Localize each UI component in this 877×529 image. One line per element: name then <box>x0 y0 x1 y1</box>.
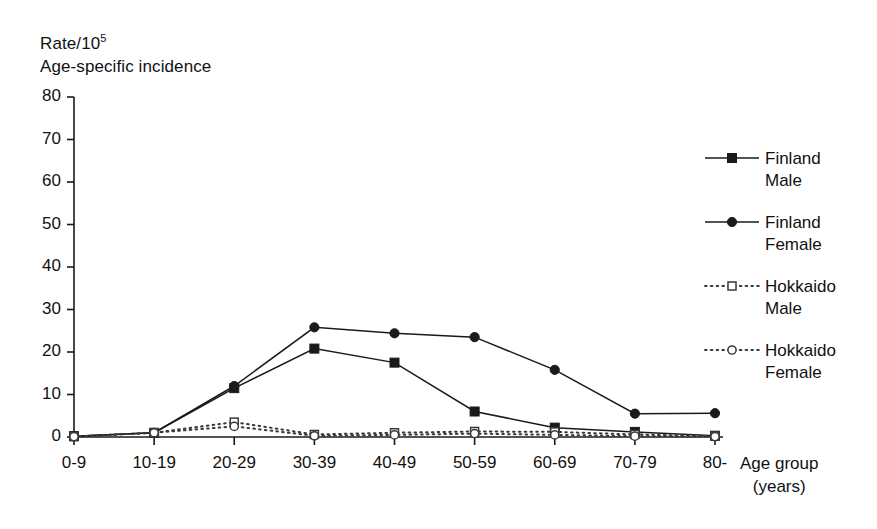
y-axis-tick-label: 0 <box>27 426 61 446</box>
y-axis-tick-label: 10 <box>27 384 61 404</box>
marker-filled-circle <box>710 409 719 418</box>
marker-filled-circle <box>230 381 239 390</box>
x-axis-tick-label: 80- <box>703 453 728 473</box>
x-axis-tick-label: 10-19 <box>132 453 175 473</box>
legend-marker-sample <box>703 149 761 167</box>
legend-label: FinlandMale <box>765 148 821 192</box>
plot-area <box>0 0 877 529</box>
marker-open-circle <box>310 432 318 440</box>
marker-open-circle <box>711 432 719 440</box>
x-axis-tick-label: 60-69 <box>533 453 576 473</box>
x-axis-tick-label: 70-79 <box>613 453 656 473</box>
legend-label-line1: Finland <box>765 148 821 170</box>
x-axis-tick-label: 20-29 <box>213 453 256 473</box>
series-finland-female <box>69 323 719 441</box>
marker-open-circle <box>471 430 479 438</box>
chart-figure: Rate/105 Age-specific incidence Age grou… <box>0 0 877 529</box>
marker-filled-circle <box>630 409 639 418</box>
y-axis-title-rate: Rate/105 <box>40 32 106 55</box>
y-axis-title-text: Rate/10 <box>40 34 100 53</box>
y-axis-tick-label: 30 <box>27 299 61 319</box>
marker-filled-square <box>470 407 479 416</box>
y-axis-tick-label: 70 <box>27 129 61 149</box>
marker-filled-circle <box>727 217 736 226</box>
x-axis-tick-label: 50-59 <box>453 453 496 473</box>
legend-label-line2: Male <box>765 298 836 320</box>
series-line <box>74 327 715 436</box>
y-axis-tick-label: 20 <box>27 341 61 361</box>
y-axis-tick-label: 60 <box>27 171 61 191</box>
legend-item-finland-male[interactable]: FinlandMale <box>703 148 821 192</box>
marker-filled-circle <box>390 329 399 338</box>
marker-filled-square <box>310 344 319 353</box>
x-axis-title: Age group (years) <box>740 452 818 498</box>
legend-item-finland-female[interactable]: FinlandFemale <box>703 212 822 256</box>
marker-open-circle <box>230 422 238 430</box>
y-axis-tick-label: 80 <box>27 86 61 106</box>
legend-label: HokkaidoFemale <box>765 340 836 384</box>
legend-marker-sample <box>703 341 761 359</box>
legend-label-line2: Female <box>765 362 836 384</box>
y-axis-tick-label: 50 <box>27 214 61 234</box>
x-axis-tick-label: 30-39 <box>293 453 336 473</box>
marker-filled-circle <box>550 365 559 374</box>
legend-item-hokkaido-male[interactable]: HokkaidoMale <box>703 276 836 320</box>
marker-open-circle <box>390 431 398 439</box>
legend-marker-sample <box>703 213 761 231</box>
legend-label: FinlandFemale <box>765 212 822 256</box>
marker-open-circle <box>551 431 559 439</box>
marker-filled-circle <box>470 333 479 342</box>
marker-open-circle <box>70 432 78 440</box>
marker-filled-square <box>390 358 399 367</box>
x-axis-title-line1: Age group <box>740 454 818 473</box>
chart-subtitle: Age-specific incidence <box>40 55 211 78</box>
legend-label-line1: Hokkaido <box>765 276 836 298</box>
legend-label-line1: Hokkaido <box>765 340 836 362</box>
y-axis-title-exponent: 5 <box>100 32 106 44</box>
legend-label: HokkaidoMale <box>765 276 836 320</box>
x-axis-tick-label: 40-49 <box>373 453 416 473</box>
x-axis-tick-label: 0-9 <box>62 453 87 473</box>
series-finland-male <box>70 344 720 441</box>
x-axis-title-line2: (years) <box>740 475 818 498</box>
legend-item-hokkaido-female[interactable]: HokkaidoFemale <box>703 340 836 384</box>
marker-open-circle <box>150 429 158 437</box>
legend-label-line2: Female <box>765 234 822 256</box>
marker-open-circle <box>631 432 639 440</box>
marker-filled-square <box>728 154 737 163</box>
legend-label-line1: Finland <box>765 212 822 234</box>
marker-open-circle <box>728 346 736 354</box>
marker-filled-circle <box>310 323 319 332</box>
marker-open-square <box>728 282 736 290</box>
y-axis-tick-label: 40 <box>27 256 61 276</box>
legend-label-line2: Male <box>765 170 821 192</box>
legend-marker-sample <box>703 277 761 295</box>
